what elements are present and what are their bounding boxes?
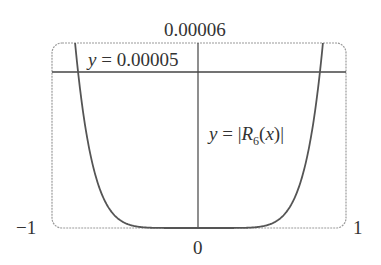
- curve-annotation: y = |R6(x)|: [209, 124, 284, 147]
- hline-annotation: y = 0.00005: [88, 50, 178, 69]
- curve-R6: [75, 43, 323, 228]
- curve-eq-a: = |: [217, 123, 241, 144]
- hline-eq: = 0.00005: [96, 49, 178, 70]
- viewing-window-frame: [52, 43, 346, 228]
- x-tick-max: 1: [353, 218, 363, 237]
- curve-eq-b: )|: [274, 123, 284, 144]
- y-tick-top: 0.00006: [164, 20, 226, 39]
- x-tick-min: −1: [16, 218, 36, 237]
- curve-x: x: [265, 123, 273, 144]
- x-tick-zero: 0: [193, 238, 203, 257]
- curve-R: R: [241, 123, 253, 144]
